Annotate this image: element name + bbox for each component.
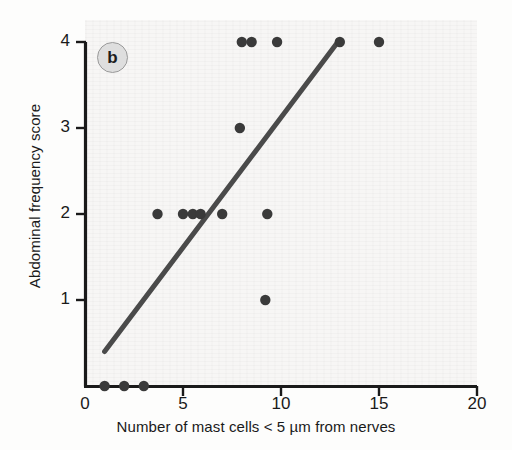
x-tick-label-5: 5 [168, 394, 198, 414]
data-point [99, 381, 109, 391]
data-point [246, 37, 256, 47]
panel-label-badge: b [97, 42, 128, 73]
data-point [237, 37, 247, 47]
data-point [217, 209, 227, 219]
data-point [152, 209, 162, 219]
data-point [178, 209, 188, 219]
data-points [99, 37, 384, 391]
regression-line [105, 42, 338, 352]
data-point [195, 209, 205, 219]
data-point [235, 123, 245, 133]
x-tick-label-10: 10 [266, 394, 296, 414]
x-tick-label-15: 15 [364, 394, 394, 414]
tick-marks [76, 42, 477, 396]
x-axis-label: Number of mast cells < 5 µm from nerves [0, 418, 512, 435]
data-point [335, 37, 345, 47]
plot-canvas [0, 0, 512, 450]
regression-line-segment [105, 42, 338, 352]
data-point [272, 37, 282, 47]
data-point [139, 381, 149, 391]
data-point [119, 381, 129, 391]
x-tick-label-20: 20 [462, 394, 492, 414]
figure-panel-b: b 05101520 1234 Number of mast cells < 5… [0, 0, 512, 450]
data-point [374, 37, 384, 47]
y-axis-label: Abdominal frequency score [26, 26, 52, 366]
data-point [260, 295, 270, 305]
data-point [262, 209, 272, 219]
axes [84, 42, 477, 387]
x-tick-label-0: 0 [70, 394, 100, 414]
